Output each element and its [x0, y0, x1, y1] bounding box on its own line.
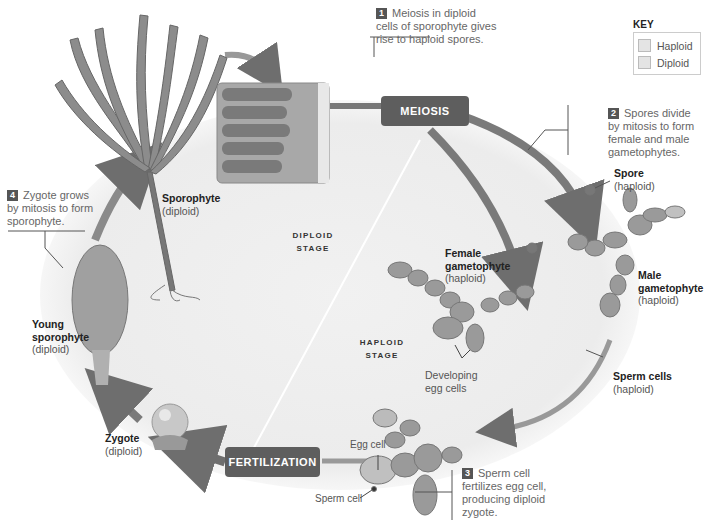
- diploid-swatch: [638, 56, 651, 69]
- step-3-number: 3: [462, 468, 473, 479]
- sperm-cells-label: Sperm cells (haploid): [613, 370, 672, 395]
- step-1-annotation: 1Meiosis in diploid cells of sporophyte …: [376, 7, 516, 46]
- male-gametophyte-label: Male gametophyte (haploid): [638, 269, 703, 307]
- step-1-number: 1: [376, 8, 387, 19]
- sporophyte-label: Sporophyte (diploid): [162, 192, 220, 217]
- key-title: KEY: [633, 19, 701, 30]
- arrow-sporophyte-to-closeup: [225, 55, 270, 75]
- zygote-illustration: [152, 404, 188, 450]
- developing-egg-cells-label: Developing egg cells: [425, 369, 478, 394]
- step-2-annotation: 2Spores divide by mitosis to form female…: [608, 107, 708, 159]
- step-3-annotation: 3Sperm cell fertilizes egg cell, produci…: [462, 467, 562, 519]
- haploid-stage-label: HAPLOID STAGE: [352, 336, 412, 362]
- fertilization-box: FERTILIZATION: [225, 447, 320, 477]
- zygote-label: Zygote (diploid): [105, 432, 142, 457]
- meiosis-box: MEIOSIS: [381, 96, 469, 126]
- sperm-cell-label: Sperm cell: [315, 493, 362, 504]
- female-gametophyte-label: Female gametophyte (haploid): [445, 247, 510, 285]
- step-4-annotation: 4Zygote grows by mitosis to form sporoph…: [7, 189, 107, 228]
- sporophyte-tissue-closeup: [217, 83, 329, 183]
- haploid-swatch: [638, 39, 651, 52]
- spore-label: Spore (haploid): [614, 167, 655, 192]
- step-2-number: 2: [608, 108, 619, 119]
- legend-key: KEY Haploid Diploid: [633, 19, 701, 75]
- key-box: Haploid Diploid: [633, 32, 701, 75]
- egg-cell-label: Egg cell: [350, 439, 386, 450]
- young-sporophyte-label: Young sporophyte (diploid): [32, 318, 89, 356]
- key-item-haploid: Haploid: [638, 37, 694, 54]
- diploid-stage-label: DIPLOID STAGE: [283, 229, 343, 255]
- step-4-number: 4: [7, 190, 18, 201]
- key-item-diploid: Diploid: [638, 54, 694, 71]
